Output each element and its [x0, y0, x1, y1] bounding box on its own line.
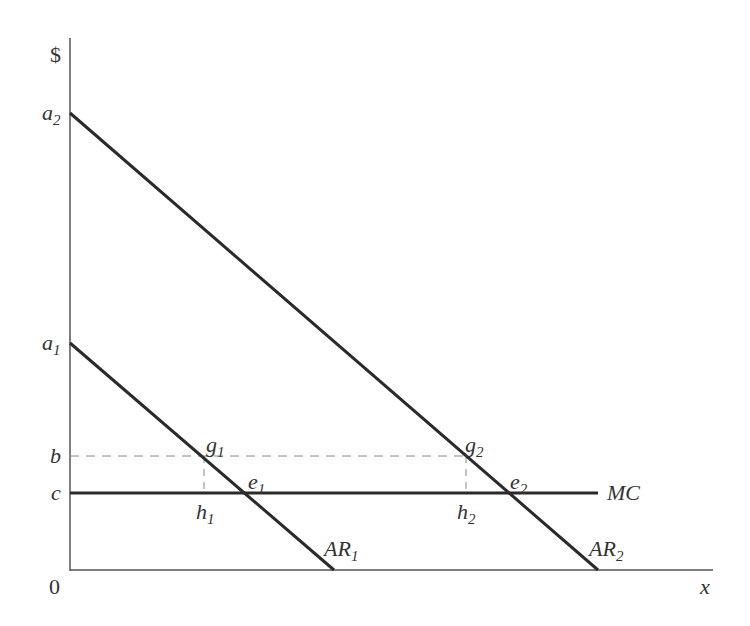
point-e1: e1: [248, 469, 265, 497]
tick-a1: a1: [42, 330, 61, 358]
mc-label: MC: [606, 480, 640, 505]
ar1-label: AR1: [322, 536, 358, 564]
point-e2: e2: [510, 469, 528, 497]
point-h2: h2: [457, 499, 476, 527]
tick-b: b: [50, 443, 61, 468]
ar2-curve: [70, 113, 598, 570]
x-axis-label: x: [699, 574, 710, 599]
y-axis-label: $: [50, 42, 61, 67]
point-g1: g1: [206, 432, 225, 460]
point-h1: h1: [196, 499, 215, 527]
tick-c: c: [51, 480, 61, 505]
point-g2: g2: [465, 432, 484, 460]
economics-diagram: $ x 0 a2 a1 b c g1 e1 h1 g2 e2 h2 AR1 AR…: [0, 0, 750, 626]
tick-a2: a2: [42, 100, 61, 128]
origin-label: 0: [49, 574, 60, 599]
ar2-label: AR2: [587, 536, 624, 564]
